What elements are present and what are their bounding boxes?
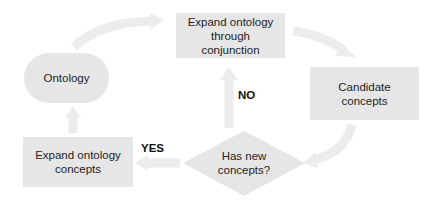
node-text: concepts <box>338 94 390 108</box>
node-expand-through-conjunction: Expand ontology through conjunction <box>176 13 285 58</box>
node-ontology-label: Ontology <box>43 71 89 85</box>
arrowhead-6 <box>65 106 81 118</box>
arrow-ontology-to-expand <box>74 21 152 47</box>
node-text: Has new <box>204 149 284 163</box>
node-text: concepts? <box>204 163 284 177</box>
arrowhead-3 <box>303 152 318 168</box>
node-text: concepts <box>35 162 121 176</box>
node-text: Candidate <box>338 80 390 94</box>
node-expand-ontology-concepts: Expand ontology concepts <box>23 137 133 187</box>
edge-label-yes: YES <box>141 142 164 154</box>
node-text: Expand ontology <box>35 148 121 162</box>
node-text: Expand ontology <box>188 15 274 29</box>
arrow-expand-to-candidate <box>293 31 344 50</box>
edge-label-no: NO <box>238 89 255 101</box>
node-text: conjunction <box>188 43 274 57</box>
node-ontology: Ontology <box>24 53 109 103</box>
arrowhead-1 <box>150 13 164 29</box>
decision-label: Has new concepts? <box>204 149 284 177</box>
arrowhead-4 <box>220 67 238 80</box>
arrowhead-5 <box>135 155 148 171</box>
arrow-candidate-to-decision <box>314 125 352 160</box>
node-candidate-concepts: Candidate concepts <box>310 67 419 120</box>
node-text: through <box>188 29 274 43</box>
